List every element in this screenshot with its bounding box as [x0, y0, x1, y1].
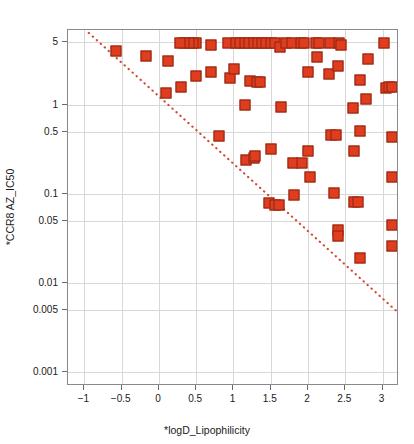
- gridline-x-7: [345, 30, 346, 384]
- x-tick-mark-1: [121, 385, 122, 390]
- y-tick-mark-1: [62, 104, 67, 105]
- data-point[interactable]: [331, 129, 342, 140]
- x-axis-title: *logD_Lipophilicity: [0, 424, 414, 436]
- data-point[interactable]: [386, 132, 397, 143]
- x-tick-mark-5: [270, 385, 271, 390]
- data-point[interactable]: [276, 101, 287, 112]
- x-tick-mark-0: [83, 385, 84, 390]
- y-tick-mark-0: [62, 41, 67, 42]
- data-point[interactable]: [176, 81, 187, 92]
- data-point[interactable]: [161, 88, 172, 99]
- data-point[interactable]: [206, 39, 217, 50]
- data-point[interactable]: [141, 51, 152, 62]
- gridline-x-6: [308, 30, 309, 384]
- x-tick-mark-3: [195, 385, 196, 390]
- data-point[interactable]: [332, 230, 343, 241]
- data-point[interactable]: [303, 66, 314, 77]
- data-point[interactable]: [303, 146, 314, 157]
- data-point[interactable]: [250, 150, 261, 161]
- x-tick-label-4: 1: [230, 393, 236, 404]
- data-point[interactable]: [206, 66, 217, 77]
- data-point[interactable]: [386, 81, 397, 92]
- data-point[interactable]: [379, 38, 390, 49]
- x-tick-mark-2: [158, 385, 159, 390]
- x-tick-label-0: −1: [78, 393, 89, 404]
- gridline-x-3: [196, 30, 197, 384]
- x-tick-label-3: 0.5: [188, 393, 202, 404]
- data-point[interactable]: [347, 102, 358, 113]
- data-point[interactable]: [355, 125, 366, 136]
- y-axis-title: *CCR8 AZ_IC50: [4, 169, 16, 245]
- data-point[interactable]: [349, 146, 360, 157]
- data-point[interactable]: [386, 171, 397, 182]
- data-point[interactable]: [162, 56, 173, 67]
- y-tick-mark-5: [62, 282, 67, 283]
- data-point[interactable]: [335, 39, 346, 50]
- data-point[interactable]: [265, 143, 276, 154]
- gridline-x-2: [159, 30, 160, 384]
- y-tick-mark-7: [62, 371, 67, 372]
- data-point[interactable]: [228, 63, 239, 74]
- data-point[interactable]: [353, 196, 364, 207]
- data-point[interactable]: [386, 241, 397, 252]
- y-tick-label-7: 0.001: [0, 366, 58, 377]
- y-tick-label-2: 0.5: [0, 125, 58, 136]
- data-point[interactable]: [110, 46, 121, 57]
- gridline-x-1: [122, 30, 123, 384]
- x-tick-label-1: −0.5: [111, 393, 131, 404]
- data-point[interactable]: [304, 171, 315, 182]
- data-point[interactable]: [361, 94, 372, 105]
- data-point[interactable]: [362, 53, 373, 64]
- data-point[interactable]: [191, 71, 202, 82]
- data-point[interactable]: [288, 190, 299, 201]
- data-point[interactable]: [174, 37, 185, 48]
- x-tick-mark-8: [382, 385, 383, 390]
- data-point[interactable]: [386, 219, 397, 230]
- x-tick-label-2: 0: [155, 393, 161, 404]
- data-point[interactable]: [312, 52, 323, 63]
- y-tick-label-5: 0.01: [0, 277, 58, 288]
- y-tick-mark-3: [62, 193, 67, 194]
- y-tick-mark-6: [62, 309, 67, 310]
- data-point[interactable]: [297, 157, 308, 168]
- scatter-chart: 510.50.10.050.010.0050.001 −1−0.500.511.…: [0, 0, 414, 444]
- data-point[interactable]: [239, 99, 250, 110]
- x-tick-label-8: 3: [379, 393, 385, 404]
- data-point[interactable]: [213, 130, 224, 141]
- data-point[interactable]: [274, 200, 285, 211]
- gridline-x-0: [84, 30, 85, 384]
- data-point[interactable]: [332, 61, 343, 72]
- data-point[interactable]: [299, 37, 310, 48]
- data-point[interactable]: [314, 37, 325, 48]
- y-tick-label-1: 1: [0, 98, 58, 109]
- x-tick-mark-6: [307, 385, 308, 390]
- x-tick-label-7: 2.5: [337, 393, 351, 404]
- x-tick-mark-4: [232, 385, 233, 390]
- x-tick-label-6: 2: [304, 393, 310, 404]
- data-point[interactable]: [355, 74, 366, 85]
- y-tick-mark-4: [62, 220, 67, 221]
- data-point[interactable]: [355, 253, 366, 264]
- y-tick-label-6: 0.005: [0, 303, 58, 314]
- y-tick-label-0: 5: [0, 36, 58, 47]
- x-tick-label-5: 1.5: [263, 393, 277, 404]
- data-point[interactable]: [329, 188, 340, 199]
- x-tick-mark-7: [344, 385, 345, 390]
- data-point[interactable]: [254, 77, 265, 88]
- data-point[interactable]: [224, 72, 235, 83]
- y-tick-mark-2: [62, 131, 67, 132]
- plot-area: [67, 29, 398, 385]
